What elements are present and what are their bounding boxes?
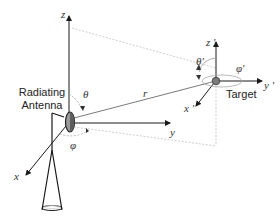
x-axis — [26, 126, 66, 175]
y-prime-label: y ' — [264, 80, 274, 91]
antenna-label-line-1: Radiating — [17, 87, 67, 98]
diagram-graphics — [0, 0, 280, 222]
antenna-label-line-2: Antenna — [17, 100, 67, 111]
target-label: Target — [226, 89, 257, 100]
theta-label: θ — [83, 89, 88, 100]
x-prime-label: x ' — [184, 103, 194, 114]
antenna-mount — [42, 113, 64, 210]
theta-prime-label: θ' — [196, 56, 204, 67]
z-prime-label: z ' — [206, 37, 215, 48]
phi-prime-label: φ' — [236, 63, 244, 74]
y-axis-label: y — [170, 127, 175, 138]
target-object — [212, 77, 220, 85]
phi-label: φ — [70, 140, 76, 151]
antenna-label: Radiating Antenna — [17, 87, 67, 111]
r-label: r — [143, 88, 147, 99]
theta-arc — [69, 94, 82, 110]
x-axis-label: x — [14, 171, 19, 182]
coordinate-diagram: z y x θ φ Radiating Antenna r z ' y ' x … — [0, 0, 280, 222]
phi-arc — [60, 130, 88, 136]
z-axis-label: z — [61, 9, 65, 20]
